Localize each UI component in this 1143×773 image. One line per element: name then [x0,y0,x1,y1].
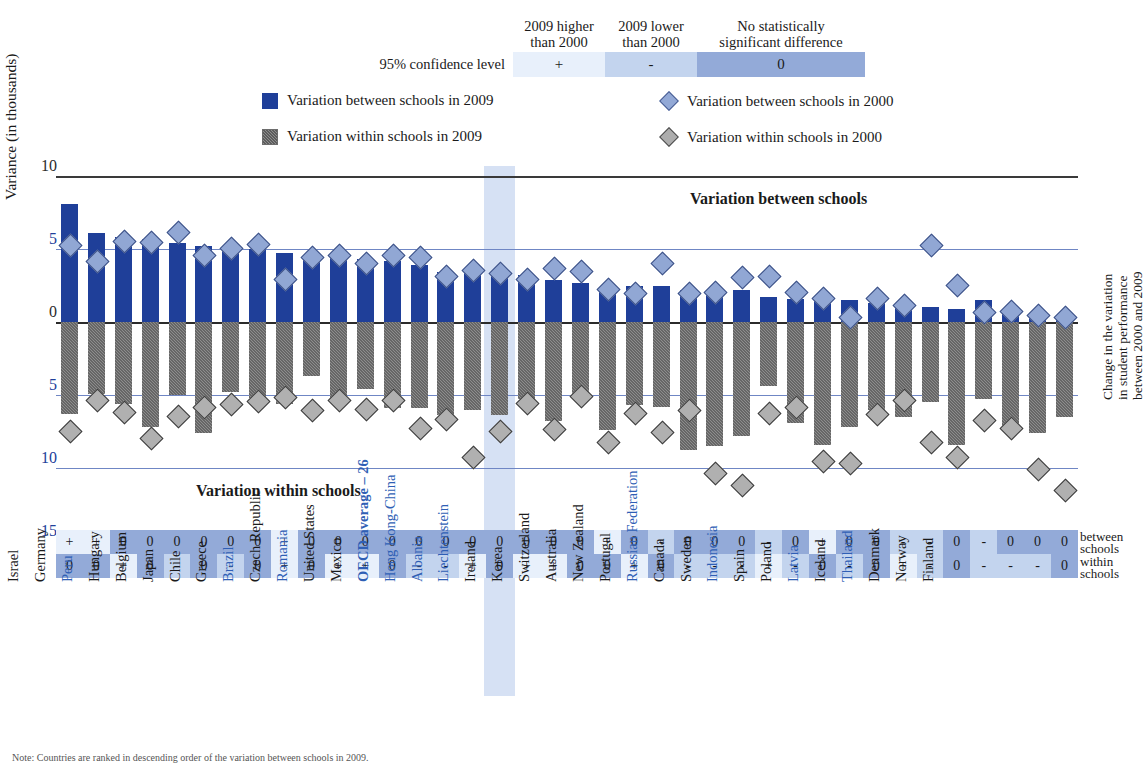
bar-within-2009 [249,322,266,398]
category-label: Spain [731,432,748,582]
bar-between-2009 [384,261,401,322]
bar-within-2009 [142,322,159,427]
category-label: Chile [167,432,184,582]
category-label: Switzerland [516,432,533,582]
footnote: Note: Countries are ranked in descending… [12,752,369,763]
bar-within-2009 [61,322,78,414]
marker-between-2000 [731,266,755,290]
bar-within-2009 [88,322,105,394]
marker-between-2000 [569,260,593,284]
right-axis-title-l3: between 2000 and 2009 [1130,271,1143,400]
bar-within-2009 [518,322,535,399]
confidence-header-lower-line2: than 2000 [605,34,697,50]
confidence-header-nosig-line2: significant difference [697,34,865,50]
confidence-level-label: 95% confidence level [355,56,513,73]
sig-within-cell: - [997,554,1024,578]
bar-within-2009 [841,322,858,427]
marker-between-2000 [946,273,970,297]
marker-within-2000 [354,397,378,421]
category-label: Albania [409,432,426,582]
bar-between-2009 [88,233,105,322]
confidence-swatch-lower: - [605,52,697,77]
bar-within-2009 [303,322,320,376]
blue-square-icon [262,93,278,109]
right-axis-title-l1: Change in the variation [1100,274,1115,400]
bar-within-2009 [733,322,750,436]
category-label: Iceland [812,432,829,582]
legend-label-within-2009: Variation within schools in 2009 [287,128,482,145]
category-label: Australia [543,432,560,582]
category-label: Latvia [785,432,802,582]
confidence-header-nosig-line1: No statistically [697,18,865,34]
confidence-header-higher-line1: 2009 higher [513,18,605,34]
marker-between-2000 [758,264,782,288]
category-label: Romania [274,432,291,582]
marker-between-2000 [650,251,674,275]
category-label: Brazil [220,432,237,582]
significance-side-label-within: within schools [1080,556,1119,580]
bar-within-2009 [922,322,939,402]
bar-within-2009 [626,322,643,405]
bar-within-2009 [437,322,454,415]
category-label: United States [301,432,318,582]
category-label: Germany [32,432,49,582]
y-tick-0-2: 0 [27,303,57,321]
legend-label-between-2009: Variation between schools in 2009 [287,92,494,109]
category-label: Hungary [86,432,103,582]
bar-within-2009 [169,322,186,395]
bar-between-2009 [545,280,562,322]
marker-within-2000 [300,399,324,423]
marker-between-2000 [919,234,943,258]
grey-diamond-icon [660,128,678,146]
confidence-legend-row: 95% confidence level + - 0 [355,52,875,77]
bar-within-2009 [1002,322,1019,429]
sig-side-within-l2: schools [1080,568,1119,580]
bar-within-2009 [222,322,239,392]
bar-between-2009 [249,249,266,322]
category-label: Canada [651,432,668,582]
bar-between-2009 [733,290,750,322]
bar-within-2009 [948,322,965,445]
legend-item-between-2009: Variation between schools in 2009 [262,92,494,109]
confidence-header-lower: 2009 lower than 2000 [605,18,697,50]
bar-between-2009 [61,204,78,322]
legend-label-within-2000: Variation within schools in 2000 [687,129,882,146]
confidence-header-lower-line1: 2009 lower [605,18,697,34]
category-label: Czech Republic [247,432,264,582]
marker-within-2000 [220,393,244,417]
bar-between-2009 [572,283,589,322]
series-legend: Variation between schools in 2009 Variat… [262,90,1142,152]
sig-between-cell: - [970,530,997,554]
bar-within-2009 [491,322,508,415]
category-label: Greece [193,432,210,582]
legend-item-within-2009: Variation within schools in 2009 [262,128,482,145]
category-label: Finland [920,432,937,582]
category-label: Japan [140,432,157,582]
marker-between-2000 [166,220,190,244]
bar-within-2009 [1056,322,1073,417]
bar-within-2009 [545,322,562,421]
category-label: Denmark [866,432,883,582]
confidence-swatch-higher: + [513,52,605,77]
category-label: Liechtenstein [435,432,452,582]
category-label: Poland [758,432,775,582]
category-label: Hong Kong-China [382,432,399,582]
marker-within-2000 [758,401,782,425]
category-label: Korea [489,432,506,582]
category-axis-labels: ArgentinaItalyBulgariaIsraelGermanyPeruH… [56,582,1078,732]
bar-within-2009 [1029,322,1046,433]
sig-within-cell: - [1024,554,1051,578]
legend-item-within-2000: Variation within schools in 2000 [660,128,882,146]
bar-within-2009 [599,322,616,430]
bar-between-2009 [948,309,965,322]
y-axis-title: Variance (in thousands) [2,54,20,200]
legend-label-between-2000: Variation between schools in 2000 [687,93,894,110]
right-axis-title-l2: in student performance [1115,276,1130,400]
bar-between-2009 [169,243,186,322]
category-label: New Zealand [570,432,587,582]
bar-within-2009 [706,322,723,446]
y-tick-10-0: 10 [27,157,57,175]
sig-within-cell: 0 [1051,554,1078,578]
marker-within-2000 [973,409,997,433]
grey-hatched-square-icon [262,129,278,145]
